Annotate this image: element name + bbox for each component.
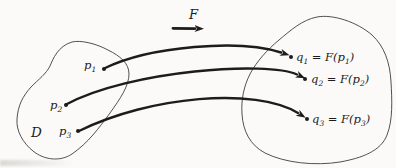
point-label-q2: q2 = F(p2) [311,72,369,86]
equals-sign: = [323,72,340,86]
equals-sign: = [308,50,325,64]
argument-name: p [353,72,360,86]
point-q2-dot [303,77,307,81]
equals-sign: = [324,112,341,126]
point-subscript: 3 [66,131,71,140]
mapping-arrow-p1-q1 [104,46,281,69]
point-label-q1: q1 = F(p1) [296,50,354,64]
function-application: F( [325,50,337,64]
argument-name: p [354,112,361,126]
mapping-arrow-p2-q2 [66,69,297,105]
closing-paren: ) [365,72,370,86]
point-label-q3: q3 = F(p3) [312,112,370,126]
point-p3-dot [76,129,80,133]
point-label-p1: p1 [84,58,96,72]
point-p2-dot [64,103,68,107]
function-application: F( [340,72,352,86]
closing-paren: ) [366,112,371,126]
argument-name: p [338,50,345,64]
scan-artifact [0,160,74,166]
closing-paren: ) [350,50,355,64]
codomain-set-outline [242,16,392,163]
point-p1-dot [102,67,106,71]
point-subscript: 1 [91,65,96,74]
point-q3-dot [305,117,309,121]
figure-function-mapping: F D p1 p2 p3 q1 = F(p1) q2 = F(p2) q3 = … [0,0,396,168]
point-label-p3: p3 [59,124,71,138]
domain-label: D [31,125,42,139]
function-application: F( [341,112,353,126]
point-subscript: 2 [57,105,62,114]
function-label: F [189,8,198,22]
point-label-p2: p2 [50,98,62,112]
point-q1-dot [289,55,293,59]
mapping-arrow-p3-q3 [79,98,298,131]
